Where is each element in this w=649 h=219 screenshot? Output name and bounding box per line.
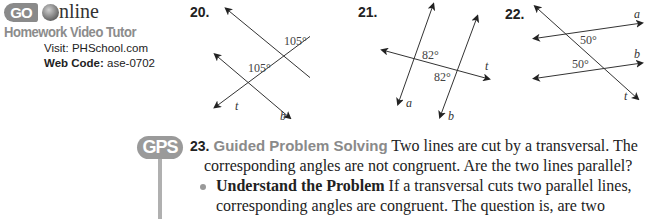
svg-text:b: b — [280, 109, 286, 123]
svg-text:82°: 82° — [422, 48, 439, 62]
visit-line: Visit: PHSchool.com — [44, 42, 148, 54]
gps-stem-divider — [158, 159, 162, 219]
problem-23: 23. Guided Problem Solving Two lines are… — [190, 136, 649, 216]
angle-label-20a: 105° — [284, 34, 307, 48]
problem-23-line-1: 23. Guided Problem Solving Two lines are… — [190, 136, 649, 156]
go-online-badge: GO — [4, 3, 38, 22]
visit-label: Visit: — [44, 42, 69, 54]
svg-text:a: a — [634, 7, 640, 21]
exercise-number-22: 22. — [505, 6, 524, 22]
angle-label-20b: 105° — [248, 61, 271, 75]
diagram-20: 105° 105° a t b — [210, 0, 310, 125]
guided-problem-solving-title: Guided Problem Solving — [213, 137, 387, 154]
svg-text:50°: 50° — [572, 57, 589, 71]
go-online-brand: nline — [59, 0, 99, 23]
svg-text:50°: 50° — [580, 33, 597, 47]
gps-badge: GPS — [137, 136, 183, 159]
exercise-number-20: 20. — [190, 4, 209, 20]
svg-text:t: t — [235, 99, 239, 113]
web-code-label: Web Code: — [44, 57, 104, 69]
svg-text:b: b — [634, 47, 640, 61]
diagram-21: 82° 82° t a b — [370, 0, 500, 125]
diagram-22: 50° 50° a b t — [530, 0, 649, 110]
homework-video-tutor-title: Homework Video Tutor — [4, 24, 136, 40]
problem-23-step-1: Understand the Problem If a transversal … — [190, 176, 649, 196]
problem-23-line-4: corresponding angles are congruent. The … — [190, 196, 649, 216]
web-code-line: Web Code: ase-0702 — [44, 57, 155, 69]
bullet-icon — [200, 184, 206, 190]
step-title: Understand the Problem — [216, 177, 385, 194]
globe-icon — [42, 4, 59, 21]
web-code-value: ase-0702 — [107, 57, 155, 69]
svg-text:82°: 82° — [434, 70, 451, 84]
problem-number: 23. — [190, 138, 209, 154]
visit-link[interactable]: PHSchool.com — [72, 42, 148, 54]
svg-text:b: b — [448, 109, 454, 123]
problem-23-line-2: corresponding angles are not congruent. … — [190, 156, 649, 176]
svg-text:t: t — [624, 89, 628, 103]
svg-text:a: a — [406, 96, 412, 110]
svg-text:t: t — [485, 59, 489, 73]
